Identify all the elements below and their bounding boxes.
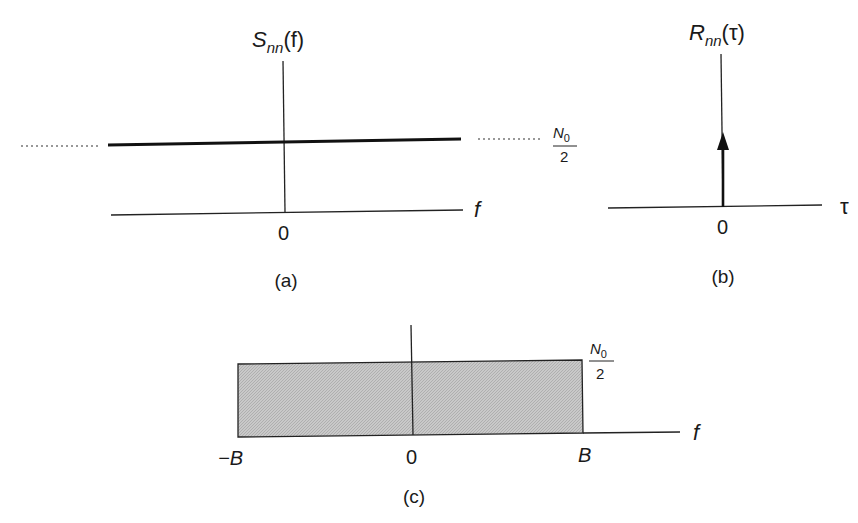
panel-b-x-axis	[608, 205, 822, 208]
panel-c-right-band-label: B	[578, 444, 591, 466]
svg-text:N0: N0	[553, 124, 570, 144]
panel-a-y-label: Snn(f)	[252, 27, 304, 56]
panel-c-band-rectangle	[238, 360, 583, 437]
panel-b: Rnn(τ) τ 0 (b)	[608, 20, 849, 287]
panel-c-x-axis	[583, 432, 680, 433]
panel-c-origin-label: 0	[406, 446, 417, 468]
panel-c-left-band-label: −B	[218, 447, 243, 469]
panel-a-x-label: f	[474, 197, 483, 222]
panel-a-x-axis	[111, 210, 463, 215]
panel-c-caption: (c)	[403, 486, 425, 507]
svg-text:N0: N0	[590, 340, 607, 360]
panel-b-impulse-arrowhead	[717, 132, 729, 150]
panel-a-caption: (a)	[274, 270, 297, 291]
panel-b-y-label: Rnn(τ)	[689, 20, 745, 49]
svg-text:2: 2	[596, 365, 604, 382]
panel-c-level-label: N0 2	[589, 340, 614, 382]
svg-text:2: 2	[560, 148, 568, 165]
panel-a: Snn(f) f 0 (a)	[21, 27, 540, 291]
panel-c-x-label: f	[693, 420, 702, 445]
panel-b-x-label: τ	[840, 194, 849, 219]
panel-b-caption: (b)	[711, 266, 734, 287]
panel-c: f −B 0 B N0 2 (c)	[218, 325, 702, 507]
panel-a-y-axis	[283, 61, 285, 212]
panel-b-origin-label: 0	[717, 216, 728, 238]
panel-a-origin-label: 0	[278, 222, 289, 244]
panel-a-level-label: N0 2	[553, 124, 577, 165]
